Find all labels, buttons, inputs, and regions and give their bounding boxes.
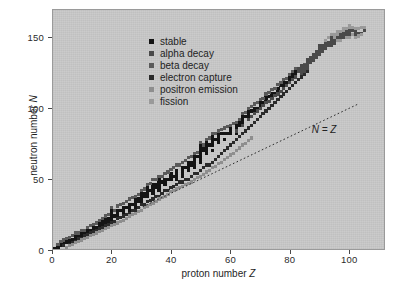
data-point — [261, 97, 264, 100]
data-point — [297, 78, 300, 81]
data-point — [77, 231, 80, 234]
legend-item-stable: stable — [149, 36, 238, 47]
data-point — [279, 81, 282, 84]
data-point — [181, 169, 184, 172]
data-point — [196, 151, 199, 154]
legend-item-label: positron emission — [160, 84, 238, 95]
data-point — [205, 149, 208, 152]
data-point — [256, 101, 259, 104]
data-point — [208, 136, 211, 139]
data-point — [163, 183, 166, 186]
data-point — [285, 77, 288, 80]
plot-area: stablealpha decaybeta decayelectron capt… — [52, 9, 385, 250]
data-point — [193, 158, 196, 161]
data-point — [125, 200, 128, 203]
legend-item-label: electron capture — [160, 72, 232, 83]
data-point — [101, 217, 104, 220]
data-point — [232, 152, 235, 155]
data-point — [226, 146, 229, 149]
legend-item-electron-capture: electron capture — [149, 72, 238, 83]
legend-item-alpha-decay: alpha decay — [149, 48, 238, 59]
data-point — [214, 165, 217, 168]
data-point — [193, 163, 196, 166]
data-point — [184, 159, 187, 162]
data-point — [160, 175, 163, 178]
data-point — [348, 36, 351, 39]
data-point — [199, 155, 202, 158]
n-equals-z-label: N = Z — [312, 124, 337, 135]
data-point — [256, 118, 259, 121]
data-point — [190, 180, 193, 183]
data-point — [312, 58, 315, 61]
data-point — [360, 33, 363, 36]
data-point — [273, 87, 276, 90]
legend: stablealpha decaybeta decayelectron capt… — [149, 36, 238, 107]
data-point — [259, 115, 262, 118]
data-point — [244, 142, 247, 145]
data-point — [244, 129, 247, 132]
data-point — [247, 139, 250, 142]
y-axis-tick — [48, 179, 52, 180]
data-point — [270, 104, 273, 107]
legend-item-label: alpha decay — [160, 48, 214, 59]
y-axis-tick — [48, 108, 52, 109]
legend-swatch-icon — [149, 63, 154, 68]
legend-item-fission: fission — [149, 96, 238, 107]
data-point — [267, 107, 270, 110]
data-point — [125, 217, 128, 220]
x-axis-tick-label: 0 — [49, 254, 54, 265]
data-point — [333, 41, 336, 44]
data-point — [157, 186, 160, 189]
data-point — [247, 126, 250, 129]
data-point — [238, 118, 241, 121]
data-point — [300, 75, 303, 78]
data-point — [220, 152, 223, 155]
data-point — [214, 158, 217, 161]
data-point — [146, 195, 149, 198]
data-point — [166, 193, 169, 196]
data-point — [261, 104, 264, 107]
data-point — [267, 91, 270, 94]
legend-item-label: fission — [160, 96, 188, 107]
data-point — [175, 172, 178, 175]
data-point — [253, 121, 256, 124]
data-point — [288, 73, 291, 76]
y-axis-label-text: neutron number — [28, 102, 39, 175]
data-point — [238, 135, 241, 138]
data-point — [306, 64, 309, 67]
data-point — [199, 161, 202, 164]
data-point — [235, 138, 238, 141]
data-point — [149, 182, 152, 185]
data-point — [327, 36, 330, 39]
data-point — [214, 132, 217, 135]
data-point — [250, 124, 253, 127]
legend-item-positron-emission: positron emission — [149, 84, 238, 95]
data-point — [178, 163, 181, 166]
data-point — [285, 90, 288, 93]
data-point — [140, 209, 143, 212]
data-point — [229, 129, 232, 132]
legend-item-beta-decay: beta decay — [149, 60, 238, 71]
y-axis-tick-label: 0 — [39, 245, 44, 256]
data-point — [261, 112, 264, 115]
data-point — [291, 84, 294, 87]
data-point — [187, 169, 190, 172]
data-point — [315, 56, 318, 59]
x-axis-tick-label: 80 — [284, 254, 295, 265]
data-point — [235, 149, 238, 152]
data-point — [270, 97, 273, 100]
data-point — [223, 138, 226, 141]
data-point — [229, 143, 232, 146]
data-point — [247, 118, 250, 121]
x-axis-label: proton number Z — [52, 268, 385, 279]
data-point — [256, 109, 259, 112]
data-point — [205, 152, 208, 155]
data-point — [241, 132, 244, 135]
data-point — [264, 109, 267, 112]
data-point — [294, 81, 297, 84]
data-point — [241, 118, 244, 121]
data-point — [235, 129, 238, 132]
legend-swatch-icon — [149, 87, 154, 92]
legend-swatch-icon — [149, 51, 154, 56]
x-axis-tick-label: 40 — [165, 254, 176, 265]
